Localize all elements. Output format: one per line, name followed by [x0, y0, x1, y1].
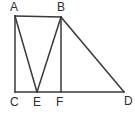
vertex-label-e: E — [33, 96, 41, 108]
vertex-label-c: C — [10, 96, 19, 108]
segment-ab — [15, 16, 61, 17]
vertex-label-f: F — [56, 96, 63, 108]
segment-be — [37, 17, 61, 92]
segment-bd — [61, 17, 124, 92]
vertex-label-b: B — [57, 1, 65, 13]
vertex-label-a: A — [10, 1, 18, 13]
geometry-canvas — [0, 0, 135, 114]
geometry-figure: A B C E F D — [0, 0, 135, 114]
segment-ae — [15, 16, 37, 92]
vertex-label-d: D — [124, 95, 133, 107]
